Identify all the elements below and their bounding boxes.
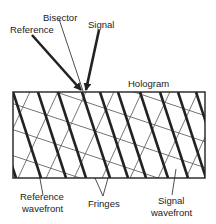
hologram-fringe-diagram: Bisector Signal Reference Hologram Refer… xyxy=(0,0,216,224)
signal-wavefront-label-line2: wavefront xyxy=(150,207,193,218)
signal-wavefront-pointer xyxy=(172,169,176,195)
fringes-pointer-left xyxy=(95,178,103,196)
reference-label: Reference xyxy=(10,24,54,35)
signal-beam-arrow xyxy=(86,30,99,90)
reference-wavefront-label-line1: Reference xyxy=(20,191,64,202)
reference-wavefront-label-line2: wavefront xyxy=(21,203,64,214)
fringes-pointer-right xyxy=(103,178,108,196)
signal-wavefront-label-line1: Signal xyxy=(158,195,184,206)
signal-label: Signal xyxy=(88,19,114,30)
fringes-label: Fringes xyxy=(88,198,120,209)
bisector-label: Bisector xyxy=(43,12,77,23)
hologram-label: Hologram xyxy=(128,78,169,89)
